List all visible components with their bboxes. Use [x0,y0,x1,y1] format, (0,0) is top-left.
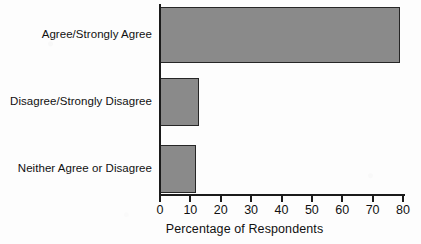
bar-neither-agree-or-disagree [160,145,196,193]
x-axis-tick-mark [311,196,313,202]
x-axis-tick-mark [372,196,374,202]
y-axis-category-label: Disagree/Strongly Disagree [0,95,152,107]
x-axis-tick-mark [402,196,404,202]
plot-area [160,0,403,196]
bar-chart: Agree/Strongly Agree Disagree/Strongly D… [0,0,421,244]
y-axis-category-label: Agree/Strongly Agree [0,28,152,40]
x-axis-title: Percentage of Respondents [166,222,323,236]
x-axis-tick-mark [281,196,283,202]
x-axis-title-wrapper: Percentage of Respondents [0,222,421,236]
x-axis-tick-mark [250,196,252,202]
x-axis-tick-label: 80 [383,203,421,217]
bar-agree-strongly-agree [160,7,400,63]
y-axis-line [159,4,161,196]
bar-disagree-strongly-disagree [160,78,199,126]
x-axis-tick-mark [341,196,343,202]
x-axis-tick-mark [159,196,161,202]
y-axis-category-label: Neither Agree or Disagree [0,162,152,174]
x-axis-tick-mark [220,196,222,202]
x-axis-tick-mark [189,196,191,202]
